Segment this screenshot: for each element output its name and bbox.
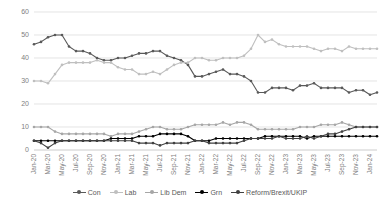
legend-item[interactable]: Lab <box>110 189 137 196</box>
data-point-marker <box>250 48 253 51</box>
legend-marker-icon <box>145 189 158 196</box>
x-axis-tick-label: Mar-21 <box>128 154 135 175</box>
y-axis-tick-label: 20 <box>21 100 29 107</box>
data-point-marker <box>243 137 246 140</box>
data-point-marker <box>89 52 92 55</box>
data-point-marker <box>236 73 239 76</box>
x-axis-tick-label: Jan-22 <box>198 154 205 174</box>
legend-item[interactable]: Reform/Brexit/UKIP <box>231 189 307 196</box>
data-point-marker <box>54 142 57 145</box>
legend-item-label: Lib Dem <box>160 189 186 196</box>
data-point-marker <box>47 140 50 143</box>
data-point-marker <box>82 50 85 53</box>
y-axis-tick-label: 0 <box>25 146 29 153</box>
y-axis-tick-label: 60 <box>21 8 29 15</box>
x-axis-tick-label: Sep-23 <box>338 154 346 175</box>
data-point-marker <box>257 34 260 37</box>
data-point-marker <box>243 140 246 143</box>
data-point-marker <box>131 133 134 136</box>
legend-marker-icon <box>110 189 123 196</box>
data-point-marker <box>369 48 372 51</box>
data-point-marker <box>271 87 274 90</box>
x-axis-tick-label: Nov-20 <box>100 154 107 175</box>
legend-item[interactable]: Lib Dem <box>145 189 186 196</box>
data-point-marker <box>166 128 169 131</box>
data-point-marker <box>152 126 155 129</box>
data-point-marker <box>33 80 36 83</box>
data-point-marker <box>173 57 176 60</box>
data-point-marker <box>103 59 106 62</box>
data-point-marker <box>236 57 239 60</box>
data-point-marker <box>117 66 120 69</box>
legend-marker-icon <box>231 189 244 196</box>
x-axis-tick-label: May-21 <box>142 154 150 176</box>
data-point-marker <box>110 137 113 140</box>
data-point-marker <box>117 57 120 60</box>
legend-item[interactable]: Con <box>73 189 101 196</box>
data-point-marker <box>376 135 379 138</box>
data-point-marker <box>61 140 64 143</box>
data-point-marker <box>187 61 190 64</box>
data-point-marker <box>306 126 309 129</box>
data-point-marker <box>180 59 183 62</box>
data-point-marker <box>229 57 232 60</box>
data-point-marker <box>229 137 232 140</box>
data-point-marker <box>264 137 267 140</box>
data-point-marker <box>334 48 337 51</box>
data-point-marker <box>334 123 337 126</box>
x-axis-tick-label: Nov-21 <box>184 154 191 175</box>
data-point-marker <box>299 84 302 87</box>
data-point-marker <box>152 142 155 145</box>
data-point-marker <box>341 135 344 138</box>
data-point-marker <box>145 142 148 145</box>
data-point-marker <box>222 121 225 124</box>
data-point-marker <box>194 57 197 60</box>
data-point-marker <box>271 135 274 138</box>
x-axis-tick-label: Sep-21 <box>170 154 178 175</box>
data-point-marker <box>75 50 78 53</box>
data-point-marker <box>159 133 162 136</box>
data-point-marker <box>166 68 169 71</box>
data-point-marker <box>173 128 176 131</box>
legend-item[interactable]: Grn <box>195 189 222 196</box>
y-axis-tick-label: 50 <box>21 31 29 38</box>
data-point-marker <box>355 48 358 51</box>
data-point-marker <box>285 87 288 90</box>
data-point-marker <box>306 137 309 140</box>
data-point-marker <box>47 36 50 39</box>
data-point-marker <box>348 123 351 126</box>
data-point-marker <box>68 133 71 136</box>
data-point-marker <box>250 80 253 83</box>
data-point-marker <box>166 142 169 145</box>
data-point-marker <box>222 137 225 140</box>
data-point-marker <box>264 135 267 138</box>
data-point-marker <box>369 94 372 97</box>
data-point-marker <box>334 87 337 90</box>
data-point-marker <box>40 80 43 83</box>
data-point-marker <box>271 137 274 140</box>
data-point-marker <box>208 140 211 143</box>
data-point-marker <box>243 54 246 57</box>
data-point-marker <box>320 123 323 126</box>
data-point-marker <box>327 133 330 136</box>
data-point-marker <box>271 38 274 41</box>
data-point-marker <box>341 121 344 124</box>
data-point-marker <box>376 91 379 94</box>
chart-legend: ConLabLib DemGrnReform/Brexit/UKIP <box>0 183 380 201</box>
x-axis-tick-label: Mar-22 <box>212 154 219 175</box>
data-point-marker <box>61 34 64 37</box>
data-point-marker <box>348 135 351 138</box>
y-axis-tick-label: 40 <box>21 54 29 61</box>
data-point-marker <box>82 61 85 64</box>
legend-item-label: Con <box>88 189 101 196</box>
data-point-marker <box>131 68 134 71</box>
x-axis-tick-label: May-23 <box>310 154 318 176</box>
data-point-marker <box>313 126 316 129</box>
data-point-marker <box>54 130 57 133</box>
data-point-marker <box>299 137 302 140</box>
data-point-marker <box>61 64 64 67</box>
data-point-marker <box>187 64 190 67</box>
data-point-marker <box>348 128 351 131</box>
data-point-marker <box>124 137 127 140</box>
x-axis-tick-label: Jul-20 <box>72 154 79 172</box>
